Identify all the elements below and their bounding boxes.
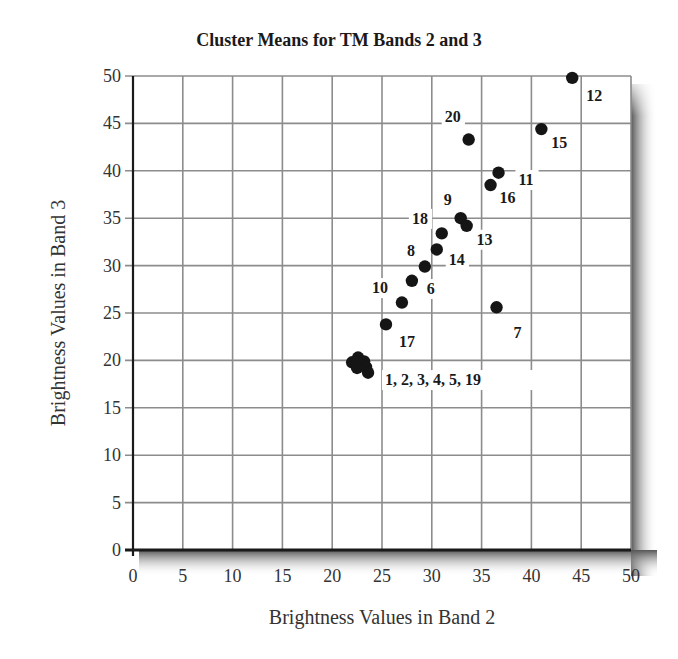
- point-label: 17: [399, 333, 415, 350]
- data-point-cluster-12: [566, 72, 578, 84]
- point-label: 18: [412, 210, 428, 227]
- x-axis-label: Brightness Values in Band 2: [133, 606, 631, 629]
- scatter-plot: 05101520253035404550 0510152025303540455…: [0, 0, 678, 659]
- data-point-cluster-20: [462, 133, 474, 145]
- y-tick-label: 30: [103, 256, 121, 276]
- y-tick-label: 35: [103, 208, 121, 228]
- x-tick-label: 20: [323, 566, 341, 586]
- x-tick-label: 45: [572, 566, 590, 586]
- x-tick-label: 35: [473, 566, 491, 586]
- x-tick-label: 5: [178, 566, 187, 586]
- point-label: 15: [551, 134, 567, 151]
- x-tick-label: 25: [373, 566, 391, 586]
- shadow-fade-top: [631, 76, 657, 116]
- data-point-cluster-7: [490, 301, 502, 313]
- y-tick-label: 45: [103, 113, 121, 133]
- y-tick-label: 40: [103, 161, 121, 181]
- data-point-cluster-15: [535, 123, 547, 135]
- x-tick-label: 15: [273, 566, 291, 586]
- point-label: 8: [407, 242, 415, 259]
- data-point-cluster-17: [380, 318, 392, 330]
- y-tick-label: 20: [103, 350, 121, 370]
- x-tick-label: 0: [129, 566, 138, 586]
- y-axis-label: Brightness Values in Band 3: [47, 200, 70, 426]
- point-label: 14: [449, 251, 465, 268]
- data-point-cluster-6: [406, 275, 418, 287]
- point-label: 9: [444, 191, 452, 208]
- y-axis-ticks: 05101520253035404550: [103, 66, 121, 560]
- point-label: 13: [477, 231, 493, 248]
- point-label: 7: [513, 324, 521, 341]
- data-point-cluster-10: [396, 296, 408, 308]
- data-point-cluster-14: [431, 243, 443, 255]
- x-tick-label: 10: [224, 566, 242, 586]
- data-point-cluster-16: [484, 179, 496, 191]
- point-label: 16: [500, 189, 516, 206]
- x-tick-label: 50: [622, 566, 640, 586]
- point-label: 20: [445, 108, 461, 125]
- y-tick-label: 15: [103, 398, 121, 418]
- x-tick-label: 30: [423, 566, 441, 586]
- data-point-cluster-8: [419, 260, 431, 272]
- data-point-cluster-18: [436, 227, 448, 239]
- point-label: 6: [427, 280, 435, 297]
- y-tick-label: 0: [112, 540, 121, 560]
- shadow-right: [631, 84, 657, 576]
- y-tick-label: 25: [103, 303, 121, 323]
- y-tick-label: 10: [103, 445, 121, 465]
- y-tick-label: 5: [112, 493, 121, 513]
- data-point-cluster-13: [460, 220, 472, 232]
- point-label: 1, 2, 3, 4, 5, 19: [385, 371, 481, 388]
- x-tick-label: 40: [522, 566, 540, 586]
- point-label: 10: [372, 279, 388, 296]
- point-label: 11: [518, 171, 533, 188]
- y-tick-label: 50: [103, 66, 121, 86]
- point-label: 12: [586, 87, 602, 104]
- data-point-cluster-11: [492, 166, 504, 178]
- data-point-cluster-19: [362, 367, 374, 379]
